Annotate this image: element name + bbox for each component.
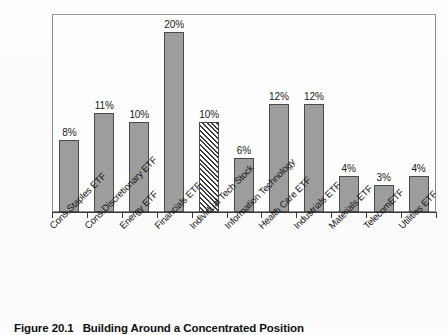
bar-slot: 8% — [52, 14, 87, 212]
x-axis-tick — [122, 212, 123, 218]
x-axis-tick — [401, 212, 402, 218]
bar-telecometf — [374, 185, 394, 212]
bar-value-label: 4% — [342, 163, 356, 174]
x-axis-tick — [192, 212, 193, 218]
bar-slot: 10% — [192, 14, 227, 212]
figure-title: Building Around a Concentrated Position — [83, 322, 304, 334]
chart-bars-layer: 8%11%10%20%10%6%12%12%4%3%4% — [52, 14, 436, 212]
bar-slot: 12% — [261, 14, 296, 212]
bar-health-care-etf — [269, 104, 289, 212]
x-axis-tick — [227, 212, 228, 218]
bar-cons-discretionary-etf — [94, 113, 114, 212]
bar-cons-staples-etf — [59, 140, 79, 212]
bar-slot: 4% — [401, 14, 436, 212]
bar-value-label: 11% — [95, 100, 114, 111]
x-axis-tick — [296, 212, 297, 218]
bar-materials-etf — [339, 176, 359, 212]
x-axis-tick — [157, 212, 158, 218]
bar-value-label: 6% — [237, 145, 251, 156]
x-axis-tick — [331, 212, 332, 218]
bar-utilities-etf — [409, 176, 429, 212]
bar-value-label: 4% — [411, 163, 425, 174]
x-axis-tick — [261, 212, 262, 218]
bar-slot: 20% — [157, 14, 192, 212]
bar-value-label: 3% — [376, 172, 390, 183]
bar-value-label: 12% — [304, 91, 324, 102]
x-axis-tick — [87, 212, 88, 218]
bar-slot: 12% — [296, 14, 331, 212]
bar-energy-etf — [129, 122, 149, 212]
figure-number: Figure 20.1 — [14, 322, 74, 334]
bar-industrials-etf — [304, 104, 324, 212]
x-axis-tick — [436, 212, 437, 218]
bar-financials-etf — [164, 32, 184, 212]
bar-individual-tech-stock — [199, 122, 219, 212]
figure-caption: Figure 20.1Building Around a Concentrate… — [14, 322, 434, 334]
bar-slot: 11% — [87, 14, 122, 212]
bar-slot: 6% — [227, 14, 262, 212]
x-axis-tick — [52, 212, 53, 218]
bar-value-label: 12% — [269, 91, 289, 102]
bar-value-label: 8% — [62, 127, 76, 138]
bar-value-label: 10% — [129, 109, 149, 120]
bar-slot: 3% — [366, 14, 401, 212]
bar-slot: 10% — [122, 14, 157, 212]
bar-value-label: 20% — [164, 19, 184, 30]
bar-slot: 4% — [331, 14, 366, 212]
bar-information-technology — [234, 158, 254, 212]
bar-value-label: 10% — [199, 109, 219, 120]
x-axis-line — [52, 212, 436, 213]
x-axis-tick — [366, 212, 367, 218]
